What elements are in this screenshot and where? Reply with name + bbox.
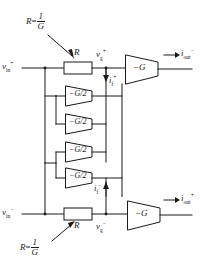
- label-resistor-bottom: R: [74, 221, 80, 230]
- amp-bottom-main-label: −G: [135, 209, 148, 218]
- label-iout-minus: iout−: [181, 48, 194, 60]
- label-vg-minus: vg−: [96, 221, 106, 233]
- annotation-bottom-denominator: G: [31, 248, 40, 257]
- amp-top-main-label: −G: [133, 63, 146, 72]
- label-if-minus-sub: f: [96, 189, 98, 195]
- label-vin-minus-sup: −: [10, 206, 13, 212]
- label-iout-minus-sub: out: [184, 54, 191, 60]
- node-vin-minus-junction: [44, 213, 47, 216]
- label-iout-plus: iout+: [181, 193, 194, 205]
- amp-gby2-2-label: −G/2: [69, 118, 86, 126]
- iout-minus-arrow-head: [175, 52, 180, 58]
- label-vg-minus-sup: −: [103, 220, 106, 226]
- label-iout-plus-sub: out: [184, 199, 191, 205]
- label-if-plus: if+: [109, 75, 116, 87]
- iout-plus-arrow-head: [175, 197, 180, 203]
- label-if-plus-sub: f: [111, 81, 113, 87]
- resistor-bottom: [64, 208, 92, 220]
- node-vin-plus-junction: [44, 67, 47, 70]
- label-if-plus-sup: +: [113, 74, 116, 80]
- label-vin-minus-sub: in: [6, 213, 10, 219]
- annotation-bottom-r-equals-one-over-g: R=1G: [20, 238, 39, 258]
- label-iout-plus-sup: +: [191, 192, 194, 198]
- label-resistor-top: R: [74, 48, 80, 57]
- annotation-bottom-fraction: 1G: [31, 238, 40, 258]
- label-vg-minus-sub: g: [100, 227, 103, 233]
- label-vin-minus: vin−: [2, 207, 14, 219]
- annotation-arrow-bottom-shaft: [52, 224, 72, 241]
- annotation-arrow-top-shaft: [48, 35, 72, 56]
- label-vg-plus: vg+: [96, 49, 106, 61]
- amp-gby2-3-label: −G/2: [69, 146, 86, 154]
- label-vg-plus-sub: g: [100, 55, 103, 61]
- label-iout-minus-sup: −: [191, 47, 194, 53]
- circuit-diagram: R=1G R=1G vin+ vin− R R vg+ vg− if+ if− …: [0, 0, 200, 260]
- label-vin-plus-sup: +: [10, 60, 13, 66]
- label-vg-plus-sup: +: [103, 48, 106, 54]
- label-if-minus: if−: [94, 183, 101, 195]
- label-vin-plus: vin+: [2, 61, 14, 73]
- node-vg-minus-junction: [105, 213, 108, 216]
- annotation-top-r-equals-one-over-g: R=1G: [26, 12, 45, 32]
- label-if-minus-sup: −: [98, 182, 101, 188]
- amp-gby2-4-label: −G/2: [69, 172, 86, 180]
- arrow-if-minus-head: [103, 182, 109, 189]
- annotation-top-fraction: 1G: [37, 12, 46, 32]
- resistor-top: [64, 62, 92, 74]
- amp-gby2-1-label: −G/2: [69, 90, 86, 98]
- annotation-top-denominator: G: [37, 22, 46, 31]
- label-vin-plus-sub: in: [6, 67, 10, 73]
